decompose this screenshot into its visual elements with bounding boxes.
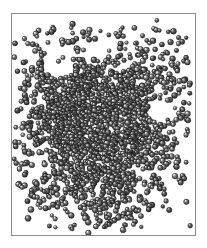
- plot-frame: [11, 13, 196, 236]
- particle-scatter-canvas: [12, 14, 195, 235]
- figure-root: [0, 0, 207, 248]
- figure-caption: [0, 237, 207, 248]
